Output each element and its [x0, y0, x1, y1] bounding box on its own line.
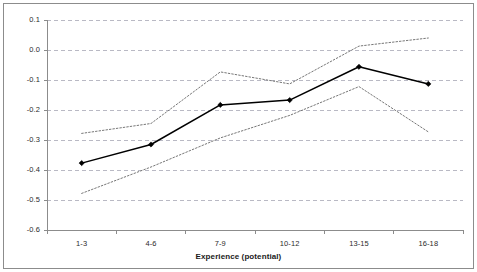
x-axis-tick-marks	[47, 230, 463, 234]
axis-lines	[44, 20, 463, 230]
y-axis-tick-label: 0.0	[6, 45, 40, 54]
y-axis-tick-label: -0.5	[6, 195, 40, 204]
y-axis-tick-label: -0.4	[6, 165, 40, 174]
data-point-markers	[79, 64, 431, 166]
plot-area	[0, 0, 477, 272]
x-axis-tick-label: 13-15	[329, 239, 389, 248]
x-axis-tick-label: 16-18	[398, 239, 458, 248]
x-axis-tick-label: 10-12	[260, 239, 320, 248]
gridlines	[47, 20, 463, 230]
y-axis-tick-label: -0.6	[6, 225, 40, 234]
x-axis-tick-label: 4-6	[121, 239, 181, 248]
y-axis-tick-label: -0.1	[6, 75, 40, 84]
y-axis-tick-label: -0.2	[6, 105, 40, 114]
chart-container: 0.10.0-0.1-0.2-0.3-0.4-0.5-0.6 1-34-67-9…	[0, 0, 477, 272]
x-axis-title: Experience (potential)	[0, 252, 477, 261]
x-axis-tick-label: 1-3	[52, 239, 112, 248]
y-axis-tick-label: 0.1	[6, 15, 40, 24]
y-axis-tick-label: -0.3	[6, 135, 40, 144]
x-axis-tick-label: 7-9	[190, 239, 250, 248]
data-series-line	[82, 67, 429, 163]
